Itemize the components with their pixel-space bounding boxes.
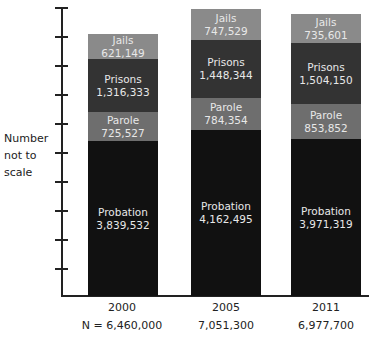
bar-2005: Jails 747,529 Prisons 1,448,344 Parole 7… bbox=[191, 9, 261, 296]
total-2000: N = 6,460,000 bbox=[62, 319, 182, 332]
y-tick bbox=[55, 181, 68, 183]
y-tick bbox=[55, 94, 68, 96]
y-tick bbox=[55, 65, 68, 67]
segment-parole: Parole 725,527 bbox=[88, 112, 158, 141]
segment-prisons: Prisons 1,504,150 bbox=[291, 43, 361, 104]
y-tick bbox=[55, 7, 68, 9]
segment-prisons: Prisons 1,448,344 bbox=[191, 40, 261, 98]
segment-jails: Jails 747,529 bbox=[191, 9, 261, 40]
segment-parole: Parole 784,354 bbox=[191, 98, 261, 130]
y-tick bbox=[55, 239, 68, 241]
y-tick bbox=[55, 152, 68, 154]
x-label-2011: 2011 bbox=[276, 301, 372, 314]
y-tick bbox=[55, 36, 68, 38]
segment-jails: Jails 621,149 bbox=[88, 34, 158, 59]
y-tick bbox=[55, 268, 68, 270]
segment-probation: Probation 3,971,319 bbox=[291, 139, 361, 296]
x-label-2005: 2005 bbox=[176, 301, 276, 314]
x-label-2000: 2000 bbox=[72, 301, 172, 314]
y-tick bbox=[55, 123, 68, 125]
bar-2000: Jails 621,149 Prisons 1,316,333 Parole 7… bbox=[88, 34, 158, 296]
bar-2011: Jails 735,601 Prisons 1,504,150 Parole 8… bbox=[291, 14, 361, 296]
total-2011: 6,977,700 bbox=[266, 319, 372, 332]
segment-probation: Probation 4,162,495 bbox=[191, 130, 261, 296]
segment-probation: Probation 3,839,532 bbox=[88, 141, 158, 296]
segment-jails: Jails 735,601 bbox=[291, 14, 361, 43]
y-axis-label: Number not to scale bbox=[4, 130, 54, 181]
y-tick bbox=[55, 210, 68, 212]
segment-prisons: Prisons 1,316,333 bbox=[88, 59, 158, 112]
segment-parole: Parole 853,852 bbox=[291, 104, 361, 139]
